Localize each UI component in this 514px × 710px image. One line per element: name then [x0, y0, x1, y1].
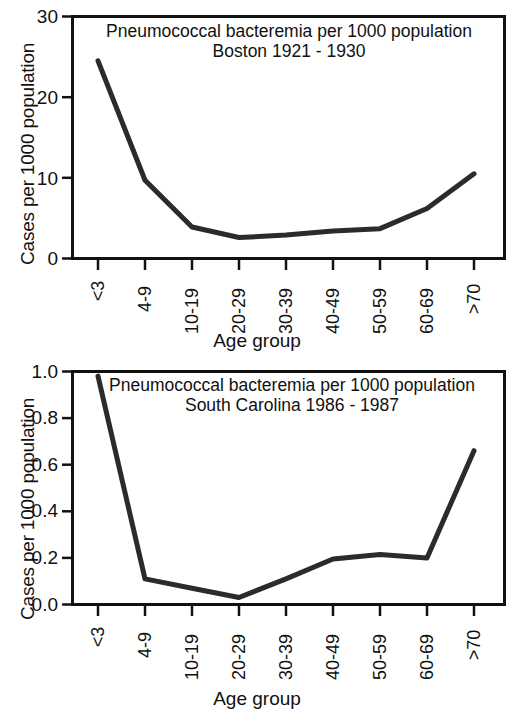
x-tick-label-bottom-0: <3: [89, 609, 107, 665]
x-axis-label-top: Age group: [0, 330, 514, 352]
x-ticks-bottom: [98, 605, 474, 617]
x-tick-label-bottom-7: 60-69: [418, 629, 436, 685]
x-tick-label-bottom-3: 20-29: [230, 629, 248, 685]
x-tick-label-bottom-8: >70: [465, 617, 483, 673]
plot-title-bottom: Pneumococcal bacteremia per 1000 populat…: [79, 376, 505, 415]
plot-title-line1-top: Pneumococcal bacteremia per 1000 populat…: [79, 22, 499, 42]
plot-title-line2-bottom: South Carolina 1986 - 1987: [79, 396, 505, 416]
chart-panel-south-carolina: Cases per 1000 population 1.0 0.8 0.6 0.…: [0, 352, 514, 704]
plot-title-top: Pneumococcal bacteremia per 1000 populat…: [79, 22, 499, 61]
data-series-line-top: [98, 61, 474, 238]
x-axis-label-bottom: Age group: [0, 688, 514, 710]
x-tick-label-top-0: <3: [89, 263, 107, 319]
x-ticks-top: [98, 259, 474, 271]
x-tick-label-bottom-2: 10-19: [183, 629, 201, 685]
chart-panel-boston: Cases per 1000 population 30 20 10 0: [0, 0, 514, 352]
x-tick-label-bottom-5: 40-49: [324, 629, 342, 685]
plot-title-line2-top: Boston 1921 - 1930: [79, 42, 499, 62]
x-tick-label-bottom-6: 50-59: [371, 629, 389, 685]
x-tick-label-bottom-4: 30-39: [277, 629, 295, 685]
x-tick-label-top-8: >70: [465, 271, 483, 327]
x-tick-label-bottom-1: 4-9: [136, 617, 154, 673]
x-tick-label-top-1: 4-9: [136, 271, 154, 327]
plot-title-line1-bottom: Pneumococcal bacteremia per 1000 populat…: [79, 376, 505, 396]
